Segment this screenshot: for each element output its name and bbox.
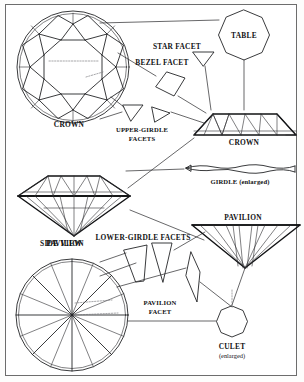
crown-table-octagon bbox=[44, 40, 102, 94]
crown-top-view-label: CROWN bbox=[54, 120, 85, 129]
crown-bezel-facets bbox=[23, 16, 124, 119]
star-facet-label: STAR FACET bbox=[153, 42, 201, 51]
table-facet-callout: TABLE bbox=[219, 10, 270, 110]
crown-top-view: CROWN bbox=[17, 11, 129, 129]
culet-note-label: (enlarged) bbox=[219, 352, 245, 360]
crown-side-view-label: CROWN bbox=[229, 138, 260, 147]
culet-octagon bbox=[217, 306, 248, 337]
pavilion-facet-leader-out bbox=[200, 282, 232, 307]
bezel-facet-shape bbox=[156, 72, 185, 96]
table-label: TABLE bbox=[231, 31, 257, 40]
pavilion-dotted-guide-1 bbox=[75, 300, 112, 303]
diamond-anatomy-figure: CROWN TABLE STAR FACET BEZEL FACET bbox=[0, 0, 304, 382]
girdle-band-top bbox=[186, 165, 295, 169]
side-view-pavilion-facets bbox=[26, 196, 122, 236]
pavilion-to-culet-leader bbox=[232, 268, 245, 305]
girdle-callout: GIRDLE (enlarged) bbox=[126, 165, 295, 186]
pavilion-facet-leader-in bbox=[117, 268, 186, 287]
pavilion-facet-shape bbox=[186, 252, 200, 302]
crown-girdle-circle bbox=[20, 14, 127, 121]
pavilion-facet-label-1: PAVILION bbox=[144, 299, 177, 306]
upper-girdle-facets-label-2: FACETS bbox=[129, 135, 156, 142]
lower-girdle-facets-label: LOWER-GIRDLE FACETS bbox=[95, 233, 190, 242]
bezel-facet-leader-out bbox=[178, 96, 206, 113]
lower-girdle-facets-callout: LOWER-GIRDLE FACETS bbox=[95, 232, 205, 282]
pavilion-bottom-view-label: PAVILION bbox=[46, 239, 84, 248]
bezel-facet-callout: BEZEL FACET bbox=[118, 53, 206, 113]
lower-girdle-facet-shape-b bbox=[152, 243, 172, 282]
pavilion-side-view: PAVILION bbox=[192, 213, 300, 305]
crown-side-right-edge bbox=[277, 114, 296, 135]
pavilion-side-facets bbox=[200, 225, 291, 268]
star-facet-leader bbox=[205, 66, 211, 110]
girdle-leader bbox=[126, 169, 184, 171]
diamond-diagram-canvas: CROWN TABLE STAR FACET BEZEL FACET bbox=[0, 0, 304, 382]
upper-girdle-leader-in bbox=[111, 97, 124, 107]
upper-girdle-leader-in2 bbox=[100, 112, 122, 119]
lower-girdle-leader-in2 bbox=[100, 263, 136, 276]
crown-table-leader bbox=[100, 20, 219, 23]
pavilion-side-view-label: PAVILION bbox=[224, 213, 262, 222]
upper-girdle-facets-label-1: UPPER-GIRDLE bbox=[116, 126, 168, 133]
crown-star-facets bbox=[30, 24, 116, 110]
star-facet-callout: STAR FACET bbox=[153, 42, 214, 110]
crown-side-view: CROWN bbox=[194, 114, 296, 147]
crown-side-outline bbox=[194, 114, 296, 135]
upper-girdle-leader-out bbox=[171, 112, 204, 123]
side-view-crown-facets bbox=[18, 176, 130, 196]
girdle-label: GIRDLE (enlarged) bbox=[210, 178, 269, 186]
pavilion-facet-callout: PAVILION FACET bbox=[117, 252, 232, 315]
pavilion-bottom-view: PAVILION bbox=[16, 239, 128, 371]
crown-dotted-guide-2 bbox=[86, 72, 103, 77]
upper-girdle-facet-shape-b bbox=[152, 107, 170, 122]
diamond-side-view: SIDE VIEW bbox=[18, 138, 204, 248]
side-view-to-crown-leader bbox=[128, 138, 194, 188]
culet-label: CULET bbox=[219, 342, 246, 351]
upper-girdle-facet-shape-a bbox=[123, 105, 143, 121]
girdle-band-bottom bbox=[186, 168, 295, 173]
pavilion-facet-label-2: FACET bbox=[149, 308, 172, 315]
lower-girdle-leader-in bbox=[100, 253, 126, 262]
crown-outline-circle bbox=[17, 11, 129, 123]
star-facet-shape bbox=[193, 52, 214, 66]
bezel-facet-label: BEZEL FACET bbox=[135, 58, 188, 67]
girdle-left-cap bbox=[186, 165, 191, 171]
